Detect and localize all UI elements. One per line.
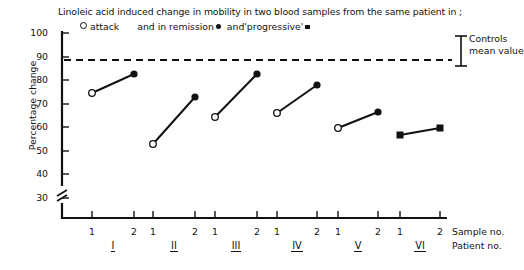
data-point-open-circle — [150, 141, 157, 148]
controls-mean-error-bar — [455, 36, 467, 66]
data-point-open-circle — [335, 125, 342, 132]
data-point-filled-circle — [374, 108, 381, 115]
data-point-open-circle — [89, 90, 96, 97]
data-point-filled-circle — [253, 70, 260, 77]
data-point-filled-square — [397, 132, 404, 139]
data-point-filled-square — [437, 125, 444, 132]
connector-line-patient-I — [92, 74, 134, 93]
data-point-filled-circle — [130, 70, 137, 77]
connector-line-patient-II — [153, 97, 195, 144]
data-point-open-circle — [274, 110, 281, 117]
connector-line-patient-VI — [400, 128, 440, 135]
data-point-filled-circle — [313, 81, 320, 88]
connector-line-patient-III — [215, 74, 257, 117]
data-point-filled-circle — [191, 93, 198, 100]
connector-line-patient-IV — [277, 85, 317, 113]
data-point-open-circle — [212, 114, 219, 121]
connector-line-patient-V — [338, 112, 378, 128]
